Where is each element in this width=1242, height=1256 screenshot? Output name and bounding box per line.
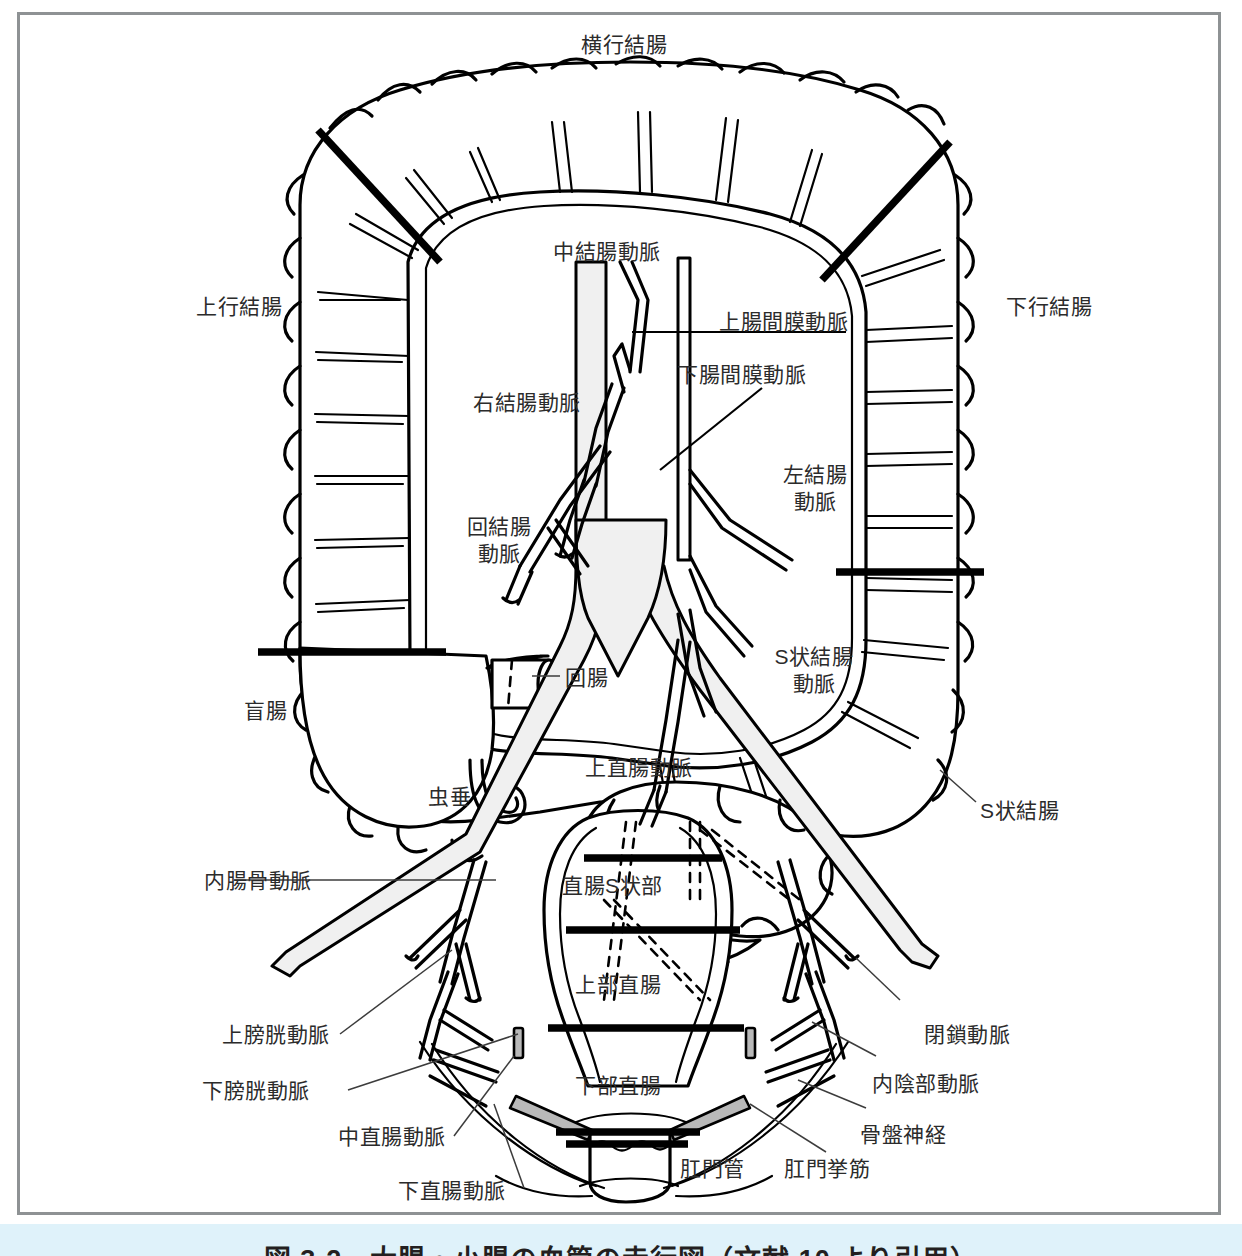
label-sigmoid-colon: S状結腸 xyxy=(980,798,1059,823)
anatomy-illustration: .o { fill:#ffffff; stroke:#000000; strok… xyxy=(0,0,1242,1256)
label-transverse-colon: 横行結腸 xyxy=(544,32,704,57)
label-right-colic-artery: 右結腸動脈 xyxy=(473,390,581,415)
caption-band: 図 3-2 大腸・小腸の血管の走行図（文献 10 より引用） xyxy=(0,1224,1242,1256)
label-left-colic-artery-line1: 左結腸 xyxy=(760,462,870,487)
label-inferior-rectal-artery: 下直腸動脈 xyxy=(398,1178,506,1203)
label-ileocolic-artery-line2: 動脈 xyxy=(444,541,554,566)
label-descending-colon: 下行結腸 xyxy=(1006,294,1092,319)
label-pelvic-nerve: 骨盤神経 xyxy=(860,1122,946,1147)
label-middle-colic-artery: 中結腸動脈 xyxy=(553,239,661,264)
label-ascending-colon: 上行結腸 xyxy=(196,294,282,319)
label-anal-canal: 肛門管 xyxy=(680,1156,745,1181)
label-levator-ani: 肛門挙筋 xyxy=(784,1156,870,1181)
label-left-colic-artery-line2: 動脈 xyxy=(760,489,870,514)
label-superior-mesenteric-artery: 上腸間膜動脈 xyxy=(719,309,848,334)
label-upper-rectum: 上部直腸 xyxy=(575,972,661,997)
label-cecum: 盲腸 xyxy=(244,698,287,723)
label-sigmoid-artery-line1: S状結腸 xyxy=(752,644,876,669)
label-superior-rectal-artery: 上直腸動脈 xyxy=(585,755,693,780)
label-lower-rectum: 下部直腸 xyxy=(575,1073,661,1098)
label-appendix: 虫垂 xyxy=(428,784,471,809)
label-rectosigmoid: 直腸S状部 xyxy=(562,873,663,898)
label-internal-iliac-artery: 内腸骨動脈 xyxy=(204,868,312,893)
label-sigmoid-artery-line2: 動脈 xyxy=(752,671,876,696)
label-ileocolic-artery-line1: 回結腸 xyxy=(444,514,554,539)
label-inferior-mesenteric-artery: 下腸間膜動脈 xyxy=(677,362,806,387)
figure-caption: 図 3-2 大腸・小腸の血管の走行図（文献 10 より引用） xyxy=(0,1238,1242,1256)
label-ileum: 回腸 xyxy=(565,665,608,690)
figure-page: .o { fill:#ffffff; stroke:#000000; strok… xyxy=(0,0,1242,1256)
label-superior-vesical-artery: 上膀胱動脈 xyxy=(222,1022,330,1047)
label-internal-pudendal-artery: 内陰部動脈 xyxy=(872,1071,980,1096)
label-middle-rectal-artery: 中直腸動脈 xyxy=(338,1124,446,1149)
label-obturator-artery: 閉鎖動脈 xyxy=(924,1022,1010,1047)
label-inferior-vesical-artery: 下膀胱動脈 xyxy=(202,1078,310,1103)
